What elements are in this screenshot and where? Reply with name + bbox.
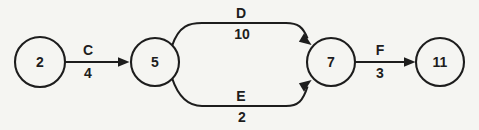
- edge-c-weight: 4: [84, 65, 92, 81]
- edge-c-arrowhead: [118, 57, 130, 67]
- edge-d-weight: 10: [234, 26, 250, 42]
- edge-c: C 4: [65, 42, 130, 81]
- graph-diagram: C 4 D 10 E 2 F 3 2: [0, 0, 479, 130]
- edge-e-label: E: [236, 88, 245, 104]
- edge-d-label: D: [236, 5, 246, 21]
- node-5-label: 5: [151, 54, 159, 70]
- edge-e-weight: 2: [238, 109, 246, 125]
- node-7: 7: [307, 38, 355, 86]
- edge-f-arrowhead: [404, 57, 416, 67]
- edge-f: F 3: [356, 42, 416, 81]
- edge-f-label: F: [376, 42, 385, 58]
- edge-e: E 2: [172, 78, 312, 125]
- edge-d: D 10: [172, 5, 312, 46]
- node-11: 11: [416, 38, 464, 86]
- node-5: 5: [131, 38, 179, 86]
- graph-canvas: C 4 D 10 E 2 F 3 2: [0, 0, 479, 130]
- node-2-label: 2: [36, 54, 44, 70]
- edge-c-label: C: [83, 42, 93, 58]
- node-2: 2: [15, 37, 65, 87]
- node-7-label: 7: [327, 54, 335, 70]
- node-11-label: 11: [433, 54, 448, 70]
- edge-f-weight: 3: [376, 65, 384, 81]
